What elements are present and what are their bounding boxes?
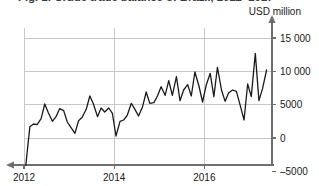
line-chart-plot: –50000500010 00015 000 201220142016 [0,0,319,186]
svg-text:2014: 2014 [103,172,126,183]
svg-text:5000: 5000 [280,99,303,110]
svg-text:15 000: 15 000 [280,33,311,44]
svg-text:–5000: –5000 [280,166,308,177]
x-axis-tick-labels: 201220142016 [13,172,216,183]
svg-text:2016: 2016 [193,172,216,183]
y-axis-tick-labels: –50000500010 00015 000 [280,33,311,177]
svg-text:10 000: 10 000 [280,66,311,77]
data-series-group [26,53,267,165]
svg-text:2012: 2012 [13,172,36,183]
chart-figure: Fig. 1: Crude trade balance of Brazil, 2… [0,0,319,186]
svg-text:0: 0 [280,133,286,144]
